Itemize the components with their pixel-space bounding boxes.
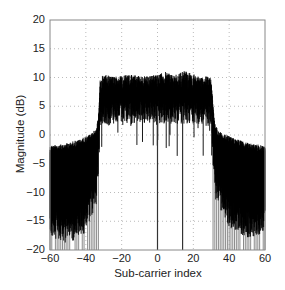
y-tick-label: 20	[15, 13, 45, 25]
x-tick-label: −60	[35, 252, 65, 264]
spectrum-series	[50, 71, 265, 250]
x-tick-label: 0	[143, 252, 173, 264]
y-axis-label: Magnitude (dB)	[14, 69, 26, 199]
x-tick-label: 60	[250, 252, 280, 264]
x-tick-label: −40	[71, 252, 101, 264]
x-tick-label: 40	[214, 252, 244, 264]
x-tick-label: −20	[107, 252, 137, 264]
y-tick-label: 15	[15, 42, 45, 54]
x-tick-label: 20	[178, 252, 208, 264]
x-axis-label: Sub-carrier index	[50, 267, 266, 279]
y-tick-label: −15	[15, 214, 45, 226]
